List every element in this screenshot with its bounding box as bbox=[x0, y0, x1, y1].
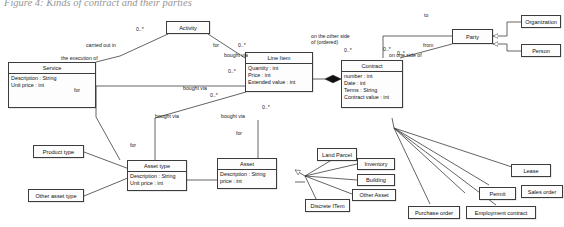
class-name-line-item: Line Item bbox=[246, 53, 312, 64]
class-name-land-parcel: Land Parcel bbox=[322, 151, 352, 159]
attr: price : int bbox=[220, 178, 274, 185]
class-box-person[interactable]: Person bbox=[521, 44, 561, 57]
class-box-employment-contract[interactable]: Employment contract bbox=[466, 206, 536, 219]
class-box-permit[interactable]: Permit bbox=[479, 187, 516, 200]
class-name-inventory: Inventory bbox=[364, 160, 387, 168]
class-box-contract[interactable]: Contract number : int Date : int Terms :… bbox=[341, 60, 403, 108]
figure-caption: Figure 4: Kinds of contract and their pa… bbox=[4, 0, 192, 8]
attr: Price : int bbox=[248, 72, 310, 79]
class-name-sales-order: Sales order bbox=[528, 188, 557, 196]
class-name-permit: Permit bbox=[489, 190, 505, 198]
class-name-building: Building bbox=[366, 176, 386, 184]
association-label-to: to bbox=[424, 12, 428, 18]
attr: Contract value : int bbox=[344, 94, 400, 101]
class-box-line-item[interactable]: Line Item Quantity : int Price : int Ext… bbox=[245, 52, 313, 92]
class-box-sales-order[interactable]: Sales order bbox=[521, 185, 563, 198]
multiplicity-lineitem-bottom-right: 0..* bbox=[262, 104, 270, 110]
association-label-carried-out-in: carried out in bbox=[86, 42, 116, 48]
association-label-for-assettype: for bbox=[130, 142, 136, 148]
multiplicity-contract-one-side: 0..* bbox=[383, 46, 391, 52]
attr: number : int bbox=[344, 73, 400, 80]
class-name-lease: Lease bbox=[523, 167, 538, 175]
association-label-bought-via-assettype: bought via bbox=[155, 113, 179, 119]
attr: Unit price : int bbox=[11, 82, 93, 89]
class-name-person: Person bbox=[532, 47, 550, 55]
attr: Quantity : int bbox=[248, 65, 310, 72]
class-name-other-asset-type: Other asset type bbox=[35, 192, 76, 200]
association-label-bought-via-activity: bought via bbox=[224, 52, 248, 58]
class-attrs-line-item: Quantity : int Price : int Extended valu… bbox=[246, 64, 312, 88]
association-label-on-one-side-of: on one side of bbox=[389, 52, 422, 58]
class-attrs-service: Description : String Unit price : int bbox=[9, 74, 95, 91]
attr: Extended value : int bbox=[248, 79, 310, 86]
class-box-asset-type[interactable]: Asset type Description : String Unit pri… bbox=[127, 160, 187, 191]
class-box-building[interactable]: Building bbox=[357, 174, 395, 186]
class-name-party: Party bbox=[466, 33, 479, 41]
class-name-activity: Activity bbox=[179, 24, 197, 32]
attr: Description : String bbox=[130, 173, 184, 180]
class-name-discrete-item: Discrete ITem bbox=[310, 202, 344, 210]
association-label-from: from bbox=[423, 42, 433, 48]
class-name-other-asset: Other Asset bbox=[359, 191, 388, 199]
association-label-bought-via-service: bought via bbox=[183, 85, 207, 91]
attr: Terms : String bbox=[344, 87, 400, 94]
class-attrs-asset-type: Description : String Unit price : int bbox=[128, 172, 186, 189]
association-label-for-service-asset: for bbox=[74, 87, 80, 93]
class-name-contract: Contract bbox=[342, 61, 402, 72]
multiplicity-contract-other-side: 0..* bbox=[344, 47, 352, 53]
class-name-asset: Asset bbox=[218, 159, 276, 170]
class-name-product-type: Product type bbox=[43, 148, 74, 156]
class-name-purchase-order: Purchase order bbox=[415, 209, 453, 217]
association-label-the-execution-of: the execution of bbox=[61, 55, 98, 61]
class-box-product-type[interactable]: Product type bbox=[33, 145, 84, 158]
association-label-for-activity-lineitem: for bbox=[213, 42, 219, 48]
class-box-purchase-order[interactable]: Purchase order bbox=[408, 206, 460, 219]
class-attrs-asset: Description : String price : int bbox=[218, 170, 276, 187]
class-name-employment-contract: Employment contract bbox=[475, 209, 528, 217]
class-box-lease[interactable]: Lease bbox=[511, 164, 551, 177]
association-label-bought-via-asset: bought via bbox=[221, 113, 245, 119]
class-name-asset-type: Asset type bbox=[128, 161, 186, 172]
class-attrs-contract: number : int Date : int Terms : String C… bbox=[342, 72, 402, 103]
class-box-organization[interactable]: Organization bbox=[521, 15, 561, 28]
attr: Unit price : int bbox=[130, 180, 184, 187]
class-box-other-asset-type[interactable]: Other asset type bbox=[28, 189, 84, 202]
class-box-asset[interactable]: Asset Description : String price : int bbox=[217, 158, 277, 189]
multiplicity-lineitem-bottom-left: 0..* bbox=[210, 92, 218, 98]
multiplicity-activity-left: 0..* bbox=[136, 26, 144, 32]
attr: Description : String bbox=[11, 75, 93, 82]
class-name-organization: Organization bbox=[525, 18, 557, 26]
association-label-for-asset: for bbox=[236, 130, 242, 136]
class-name-service: Service bbox=[9, 63, 95, 74]
class-box-land-parcel[interactable]: Land Parcel bbox=[317, 148, 357, 161]
class-box-inventory[interactable]: Inventory bbox=[357, 158, 395, 170]
class-box-activity[interactable]: Activity bbox=[166, 21, 210, 34]
class-box-discrete-item[interactable]: Discrete ITem bbox=[305, 199, 350, 212]
multiplicity-activity-right: 0..* bbox=[238, 42, 246, 48]
association-label-on-the-other-side-of: on the other side of (ordered) bbox=[311, 33, 355, 45]
attr: Date : int bbox=[344, 80, 400, 87]
attr: Description : String bbox=[220, 171, 274, 178]
class-box-service[interactable]: Service Description : String Unit price … bbox=[8, 62, 96, 108]
multiplicity-contract-from: 0..* bbox=[397, 50, 405, 56]
multiplicity-lineitem-left: 0..* bbox=[228, 68, 236, 74]
class-box-party[interactable]: Party bbox=[452, 29, 493, 44]
class-box-other-asset[interactable]: Other Asset bbox=[352, 189, 396, 201]
